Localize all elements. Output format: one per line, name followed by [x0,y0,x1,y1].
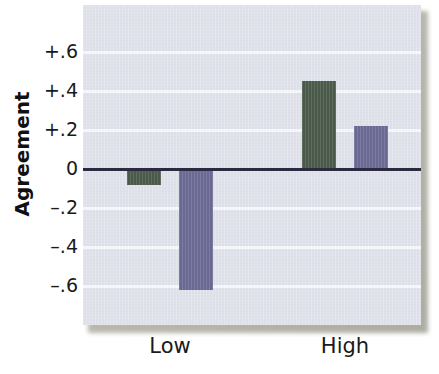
gridline [83,90,421,93]
y-tick-label: +.4 [16,81,78,100]
chart-figure: Agreement +.6+.4+.20–.2–.4–.6 LowHigh [0,0,439,374]
bar-high-series-purple [354,126,388,169]
gridline [83,246,421,249]
gridline [83,285,421,288]
bar-low-series-purple [179,169,213,290]
bar-high-series-green [302,81,336,169]
y-tick-label: –.2 [16,198,78,217]
plot-area [83,5,421,325]
y-tick-label: +.2 [16,120,78,139]
x-tick-label: Low [110,336,230,357]
gridline [83,207,421,210]
y-tick-label: 0 [16,159,78,178]
bar-low-series-green [127,169,161,185]
x-tick-label: High [285,336,405,357]
gridline [83,51,421,54]
y-tick-label: –.6 [16,276,78,295]
zero-baseline [83,168,421,171]
y-axis-tick-labels: +.6+.4+.20–.2–.4–.6 [8,0,78,374]
y-tick-label: –.4 [16,237,78,256]
y-tick-label: +.6 [16,42,78,61]
